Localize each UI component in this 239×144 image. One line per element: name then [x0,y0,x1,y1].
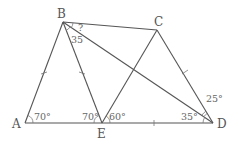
angle-label-a: 70° [34,111,51,122]
vertex-label-c: C [154,15,163,29]
geometry-diagram: A B C D E 70° 70° 60° 35° 25° 35 ? [0,0,239,144]
angle-arc-a [28,116,33,124]
angle-arc-cdb-outer [202,111,206,115]
segment-bd [63,22,213,123]
segment-ce [102,30,157,123]
segment-cd [157,30,213,123]
angle-label-ced: 60° [109,111,126,122]
vertex-label-d: D [217,117,227,131]
vertex-label-a: A [11,117,21,131]
angle-arc-cdb [204,114,207,117]
vertex-label-e: E [97,127,106,141]
angle-label-bea: 70° [82,111,99,122]
angle-label-cbd: ? [78,22,83,33]
angle-arc-bda [203,117,205,123]
angle-label-cdb: 25° [206,93,223,104]
angle-arc-b-top [71,23,73,28]
vertex-label-b: B [57,7,66,21]
angle-label-ebd: 35 [71,34,83,45]
angle-label-bda: 35° [181,111,198,122]
segment-ab [25,22,63,123]
angle-arc-b-mid [66,27,70,31]
